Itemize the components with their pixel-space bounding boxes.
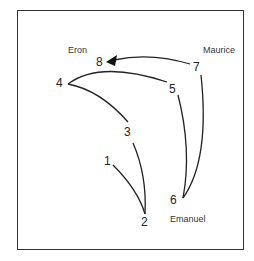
point-label-5: 5 [169,83,176,95]
point-label-2: 2 [141,216,148,228]
path-2-to-3 [133,143,145,214]
path-4-to-5 [68,71,167,84]
point-label-8: 8 [96,56,103,68]
person-label-emanuel: Emanuel [170,215,206,224]
arrowhead-icon [106,55,117,66]
point-label-4: 4 [56,77,63,89]
point-label-6: 6 [170,194,177,206]
path-1-to-2 [113,165,145,214]
person-label-maurice: Maurice [203,46,235,55]
point-label-1: 1 [104,155,111,167]
path-7-to-8 [114,57,190,64]
point-label-3: 3 [124,126,131,138]
path-5-to-6 [178,95,187,198]
person-label-eron: Eron [68,46,87,55]
point-label-7: 7 [193,61,200,73]
path-3-to-4 [68,84,128,122]
